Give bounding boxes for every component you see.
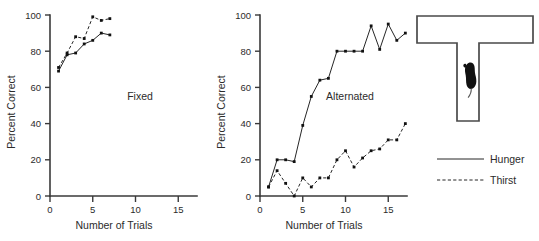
panel-fixed: Percent Correct 0 20 40 60 80 100	[5, 10, 197, 232]
panel-fixed-x-ticks: 0 5 10 15	[47, 196, 183, 215]
data-point	[378, 48, 381, 51]
t-maze-outline	[417, 16, 533, 121]
data-point	[301, 124, 304, 127]
panel-fixed-y-ticks: 0 20 40 60 80 100	[25, 10, 50, 202]
panel-alternated-y-ticks: 0 20 40 60 80 100	[235, 10, 260, 202]
panel-fixed-ytick-40: 40	[30, 118, 41, 129]
panel-alternated-ytick-100: 100	[235, 10, 251, 21]
panel-fixed-ytick-100: 100	[25, 10, 41, 21]
data-point	[310, 95, 313, 98]
panel-fixed-series	[57, 15, 111, 72]
panel-alternated-ytick-20: 20	[240, 154, 251, 165]
panel-alternated-xtick-5: 5	[300, 204, 305, 215]
panel-fixed-xtick-0: 0	[47, 204, 52, 215]
data-point	[404, 122, 407, 125]
panel-fixed-xlabel: Number of Trials	[75, 219, 152, 231]
data-point	[57, 70, 60, 73]
data-point	[276, 169, 279, 172]
panel-alternated-x-ticks: 0 5 10 15	[257, 196, 393, 215]
data-point	[370, 24, 373, 27]
data-point	[91, 39, 94, 42]
data-point	[353, 166, 356, 169]
data-point	[91, 15, 94, 18]
data-point	[318, 177, 321, 180]
legend-label-hunger: Hunger	[490, 153, 525, 165]
data-point	[387, 138, 390, 141]
data-point	[108, 34, 111, 37]
data-point	[267, 186, 270, 189]
data-point	[318, 79, 321, 82]
data-point	[293, 160, 296, 163]
data-point	[100, 19, 103, 22]
data-point	[370, 149, 373, 152]
panel-alternated-ytick-80: 80	[240, 46, 251, 57]
panel-alternated-ytick-40: 40	[240, 118, 251, 129]
panel-fixed-xtick-15: 15	[173, 204, 184, 215]
panel-fixed-annotation: Fixed	[127, 90, 153, 102]
panel-alternated-ylabel: Percent Correct	[215, 75, 227, 149]
data-point	[108, 17, 111, 20]
t-maze-diagram	[417, 16, 533, 121]
data-point	[344, 149, 347, 152]
data-point	[387, 23, 390, 26]
legend-label-thirst: Thirst	[490, 174, 516, 186]
legend: Hunger Thirst	[437, 153, 525, 186]
data-point	[301, 177, 304, 180]
panel-alternated-xtick-0: 0	[257, 204, 262, 215]
data-point	[100, 32, 103, 35]
panel-fixed-xtick-5: 5	[90, 204, 95, 215]
data-point	[353, 50, 356, 53]
data-point	[361, 50, 364, 53]
panel-fixed-ytick-0: 0	[36, 191, 41, 202]
panel-fixed-ylabel: Percent Correct	[5, 75, 17, 149]
panel-fixed-ytick-80: 80	[30, 46, 41, 57]
data-point	[404, 32, 407, 35]
data-point	[395, 138, 398, 141]
panel-alternated-series	[267, 23, 407, 198]
data-point	[395, 39, 398, 42]
panel-alternated: Percent Correct 0 20 40 60 80 100	[215, 10, 407, 232]
data-point	[66, 52, 69, 55]
data-point	[57, 66, 60, 69]
panel-fixed-ytick-20: 20	[30, 154, 41, 165]
data-point	[83, 37, 86, 40]
panel-alternated-ytick-0: 0	[246, 191, 251, 202]
panel-alternated-ytick-60: 60	[240, 82, 251, 93]
data-point	[361, 157, 364, 160]
panel-alternated-annotation: Alternated	[326, 90, 374, 102]
data-point	[83, 43, 86, 46]
legend-item-thirst: Thirst	[437, 174, 516, 186]
panel-alternated-xtick-15: 15	[383, 204, 394, 215]
data-point	[74, 35, 77, 38]
panel-alternated-xlabel: Number of Trials	[285, 219, 362, 231]
data-point	[293, 195, 296, 198]
data-point	[336, 158, 339, 161]
data-point	[327, 77, 330, 80]
data-point	[336, 50, 339, 53]
figure-container: Percent Correct 0 20 40 60 80 100	[0, 0, 539, 241]
data-point	[74, 52, 77, 55]
data-point	[310, 186, 313, 189]
series-line-hunger	[269, 24, 406, 187]
data-point	[344, 50, 347, 53]
series-line-thirst	[59, 17, 110, 68]
data-point	[276, 158, 279, 161]
data-point	[378, 148, 381, 151]
figure-svg: Percent Correct 0 20 40 60 80 100	[0, 0, 539, 241]
panel-alternated-xtick-10: 10	[340, 204, 351, 215]
data-point	[327, 177, 330, 180]
legend-item-hunger: Hunger	[437, 153, 525, 165]
panel-fixed-xtick-10: 10	[130, 204, 141, 215]
data-point	[284, 182, 287, 185]
panel-fixed-ytick-60: 60	[30, 82, 41, 93]
data-point	[284, 158, 287, 161]
